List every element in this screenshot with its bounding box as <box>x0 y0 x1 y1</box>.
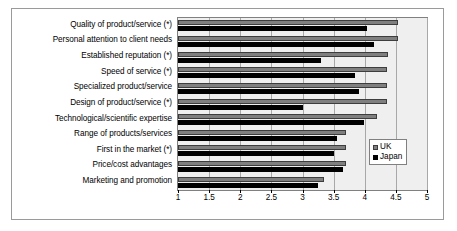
bar-row <box>178 112 427 128</box>
bar-japan <box>178 105 303 110</box>
bar-uk <box>178 67 387 72</box>
bar-japan <box>178 42 374 47</box>
bar-uk <box>178 20 398 25</box>
axis-tick-label: 4.5 <box>390 193 401 202</box>
bar-japan <box>178 73 355 78</box>
bar-japan <box>178 120 364 125</box>
chart-plot-wrapper: Quality of product/service (*)Personal a… <box>12 9 445 221</box>
category-label: Range of products/services <box>16 126 175 142</box>
category-label: Price/cost advantages <box>16 158 175 174</box>
bar-uk <box>178 145 346 150</box>
category-label: First in the market (*) <box>16 142 175 158</box>
legend-swatch-uk <box>373 145 378 150</box>
axis-tick-label: 1.5 <box>203 193 214 202</box>
bar-row <box>178 18 427 34</box>
bar-japan <box>178 151 334 156</box>
bar-row <box>178 81 427 97</box>
chart-container: Quality of product/service (*)Personal a… <box>11 8 444 220</box>
chart-legend: UK Japan <box>369 139 407 165</box>
axis-tick-label: 2 <box>238 193 243 202</box>
legend-item-uk: UK <box>373 142 402 152</box>
bar-uk <box>178 161 346 166</box>
bar-japan <box>178 89 359 94</box>
bar-row <box>178 96 427 112</box>
axis-tick-label: 3.5 <box>328 193 339 202</box>
legend-label-japan: Japan <box>380 152 402 162</box>
category-axis-labels: Quality of product/service (*)Personal a… <box>16 17 175 189</box>
category-label: Personal attention to client needs <box>16 33 175 49</box>
category-label: Specialized product/service <box>16 80 175 96</box>
legend-label-uk: UK <box>380 142 391 152</box>
bar-uk <box>178 52 388 57</box>
bar-row <box>178 65 427 81</box>
bar-row <box>178 174 427 190</box>
bar-row <box>178 49 427 65</box>
bar-uk <box>178 130 346 135</box>
category-label: Design of product/service (*) <box>16 95 175 111</box>
bar-japan <box>178 136 337 141</box>
category-label: Marketing and promotion <box>16 173 175 189</box>
category-label: Quality of product/service (*) <box>16 17 175 33</box>
axis-tick-label: 1 <box>176 193 181 202</box>
bar-japan <box>178 167 343 172</box>
axis-tick-label: 4 <box>362 193 367 202</box>
bar-uk <box>178 177 324 182</box>
axis-tick-label: 5 <box>425 193 430 202</box>
bar-uk <box>178 114 377 119</box>
category-label: Speed of service (*) <box>16 64 175 80</box>
gridline <box>427 18 428 190</box>
value-axis: 11.522.533.544.55 <box>177 190 428 206</box>
bar-uk <box>178 36 398 41</box>
category-label: Technological/scientific expertise <box>16 111 175 127</box>
axis-tick-label: 2.5 <box>266 193 277 202</box>
legend-swatch-japan <box>373 155 378 160</box>
bar-japan <box>178 26 367 31</box>
bar-uk <box>178 83 387 88</box>
legend-item-japan: Japan <box>373 152 402 162</box>
bar-japan <box>178 58 321 63</box>
category-label: Established reputation (*) <box>16 48 175 64</box>
axis-tick-label: 3 <box>300 193 305 202</box>
bar-japan <box>178 183 318 188</box>
bar-uk <box>178 99 387 104</box>
bar-row <box>178 34 427 50</box>
